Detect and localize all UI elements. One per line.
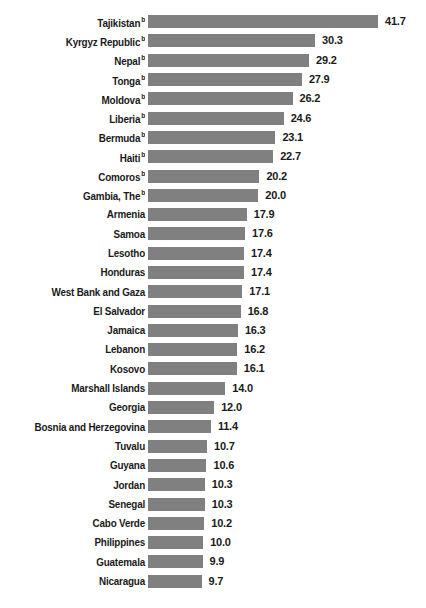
bar-container: 22.7: [145, 147, 426, 166]
bar-container: 29.2: [145, 51, 426, 70]
bar-container: 16.8: [145, 301, 426, 320]
value-label: 29.2: [316, 55, 337, 66]
bar-row: Honduras17.4: [0, 263, 426, 282]
bar-row: Bosnia and Herzegovina11.4: [0, 417, 426, 436]
category-label: Tajikistanb: [9, 16, 145, 28]
value-label: 17.4: [251, 267, 272, 278]
category-label: Nicaragua: [9, 576, 145, 587]
bar: [148, 343, 237, 356]
bar-container: 17.6: [145, 224, 426, 243]
category-label: Haitib: [9, 151, 145, 163]
value-label: 23.1: [282, 132, 303, 143]
bar-row: Samoa17.6: [0, 224, 426, 243]
bar-row: Tuvalu10.7: [0, 437, 426, 456]
category-label: Lesotho: [9, 248, 145, 259]
bar-container: 16.1: [145, 359, 426, 378]
value-label: 17.4: [251, 248, 272, 259]
bar-row: Lesotho17.4: [0, 244, 426, 263]
category-label: Lebanon: [9, 344, 145, 355]
category-label: Guatemala: [9, 557, 145, 568]
bar: [148, 324, 238, 337]
bar-container: 30.3: [145, 31, 426, 50]
bar-container: 10.3: [145, 494, 426, 513]
bar-row: Comorosb20.2: [0, 166, 426, 185]
bar: [148, 420, 211, 433]
bar-container: 10.6: [145, 456, 426, 475]
bar: [148, 227, 245, 240]
bar: [148, 459, 206, 472]
bar-container: 12.0: [145, 398, 426, 417]
bar: [148, 247, 244, 260]
category-label: Comorosb: [9, 170, 145, 182]
value-label: 9.7: [209, 576, 224, 587]
bar-container: 10.2: [145, 514, 426, 533]
value-label: 16.1: [244, 363, 265, 374]
category-label: Tuvalu: [9, 441, 145, 452]
bar-row: Armenia17.9: [0, 205, 426, 224]
bar-row: Moldovab26.2: [0, 89, 426, 108]
bar-row: El Salvador16.8: [0, 301, 426, 320]
bar-container: 16.3: [145, 321, 426, 340]
value-label: 16.3: [245, 325, 266, 336]
bar-container: 16.2: [145, 340, 426, 359]
value-label: 12.0: [221, 402, 242, 413]
bar: [148, 189, 258, 202]
category-label: Bermudab: [9, 131, 145, 143]
category-label: Gambia, Theb: [9, 189, 145, 201]
bar-row: West Bank and Gaza17.1: [0, 282, 426, 301]
bar-container: 41.7: [145, 12, 426, 31]
category-label: Honduras: [9, 267, 145, 278]
value-label: 10.3: [212, 499, 233, 510]
bar: [148, 170, 259, 183]
category-label: Moldovab: [9, 93, 145, 105]
category-label: Nepalb: [9, 54, 145, 66]
bar: [148, 478, 205, 491]
bar-row: Nicaragua9.7: [0, 572, 426, 591]
category-label: Guyana: [9, 460, 145, 471]
bar-row: Haitib22.7: [0, 147, 426, 166]
bar-container: 10.3: [145, 475, 426, 494]
bar-container: 14.0: [145, 379, 426, 398]
category-label: Tongab: [9, 74, 145, 86]
value-label: 17.9: [254, 209, 275, 220]
bar: [148, 266, 244, 279]
category-label: West Bank and Gaza: [9, 287, 145, 298]
bar-row: Philippines10.0: [0, 533, 426, 552]
category-label: Philippines: [9, 537, 145, 548]
bar: [148, 536, 203, 549]
value-label: 17.1: [249, 286, 270, 297]
category-label: Bosnia and Herzegovina: [9, 422, 145, 433]
bar: [148, 208, 247, 221]
category-label: Kosovo: [9, 364, 145, 375]
bar-row: Georgia12.0: [0, 398, 426, 417]
value-label: 14.0: [232, 383, 253, 394]
category-label: Jordan: [9, 480, 145, 491]
bar: [148, 498, 205, 511]
value-label: 10.2: [211, 518, 232, 529]
bar: [148, 112, 284, 125]
bar-container: 10.7: [145, 437, 426, 456]
bar-container: 20.2: [145, 166, 426, 185]
bar-container: 24.6: [145, 108, 426, 127]
bar: [148, 382, 225, 395]
value-label: 17.6: [252, 228, 273, 239]
bar: [148, 150, 273, 163]
bar-container: 17.1: [145, 282, 426, 301]
bar-row: Lebanon16.2: [0, 340, 426, 359]
value-label: 10.6: [213, 460, 234, 471]
category-label: Cabo Verde: [9, 518, 145, 529]
bar: [148, 54, 309, 67]
bar-container: 9.7: [145, 572, 426, 591]
category-label: Kyrgyz Republicb: [9, 35, 145, 47]
bar-row: Kosovo16.1: [0, 359, 426, 378]
bar: [148, 131, 275, 144]
category-label: Georgia: [9, 402, 145, 413]
bar: [148, 73, 302, 86]
bar-row: Jordan10.3: [0, 475, 426, 494]
bar: [148, 401, 214, 414]
category-label: Armenia: [9, 209, 145, 220]
bar: [148, 305, 241, 318]
value-label: 24.6: [291, 113, 312, 124]
bar: [148, 285, 242, 298]
bar-container: 27.9: [145, 70, 426, 89]
